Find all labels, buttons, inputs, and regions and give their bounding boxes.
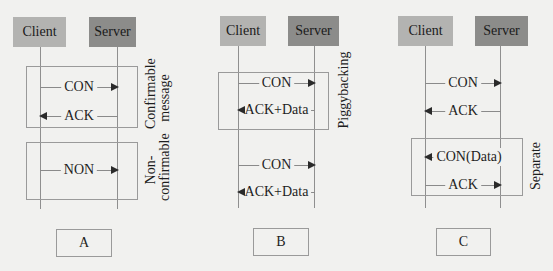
- message-label: CON(Data): [433, 148, 504, 166]
- arrow-right-icon: [111, 166, 119, 174]
- message-label: ACK: [445, 102, 481, 120]
- arrow-left-icon: [237, 188, 245, 196]
- group-label-non-confirmable: Non- confirmable: [144, 139, 172, 201]
- arrow-right-icon: [308, 161, 316, 169]
- diagram-caption-c: C: [436, 228, 491, 256]
- client-header: Client: [220, 16, 266, 46]
- message-label: ACK+Data: [242, 101, 312, 119]
- arrow-right-icon: [308, 79, 316, 87]
- arrow-right-icon: [494, 181, 502, 189]
- message-arrow: CON: [425, 76, 501, 90]
- arrow-right-icon: [111, 83, 119, 91]
- arrow-left-icon: [237, 106, 245, 114]
- client-header: Client: [13, 17, 66, 47]
- message-arrow: CON: [238, 76, 315, 90]
- message-arrow: ACK: [425, 104, 501, 118]
- message-label: CON: [259, 74, 295, 92]
- arrow-left-icon: [424, 107, 432, 115]
- arrow-left-icon: [39, 112, 47, 120]
- message-arrow: CON: [40, 80, 118, 94]
- message-arrow: NON: [40, 163, 118, 177]
- group-label-piggybacking: Piggybacking: [337, 43, 351, 137]
- message-arrow: CON: [238, 158, 315, 172]
- message-arrow: ACK+Data: [238, 185, 315, 199]
- arrow-right-icon: [494, 79, 502, 87]
- message-label: ACK: [445, 176, 481, 194]
- diagram-caption-b: B: [253, 228, 309, 256]
- message-label: NON: [61, 161, 97, 179]
- server-header: Server: [475, 16, 528, 46]
- diagram-caption-a: A: [56, 229, 112, 257]
- message-label: CON: [61, 78, 97, 96]
- message-label: CON: [445, 74, 481, 92]
- message-arrow: ACK+Data: [238, 103, 315, 117]
- server-header: Server: [89, 17, 136, 47]
- group-label-confirmable: Confirmable message: [144, 67, 172, 129]
- message-label: ACK+Data: [242, 183, 312, 201]
- message-arrow: ACK: [40, 109, 118, 123]
- message-arrow: CON(Data): [425, 150, 501, 164]
- client-header: Client: [398, 16, 453, 46]
- group-label-separate: Separate: [529, 136, 543, 196]
- message-arrow: ACK: [425, 178, 501, 192]
- arrow-left-icon: [424, 153, 432, 161]
- server-header: Server: [288, 16, 339, 46]
- message-label: CON: [259, 156, 295, 174]
- message-label: ACK: [61, 107, 97, 125]
